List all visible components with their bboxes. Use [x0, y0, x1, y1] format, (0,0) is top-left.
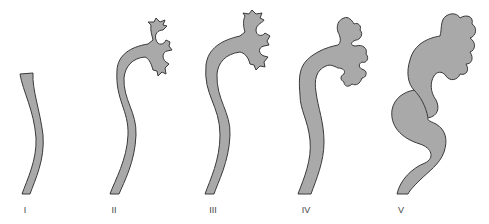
- grade-label-5: V: [398, 205, 404, 215]
- grade-label-1: I: [24, 205, 27, 215]
- grade-1-ureter: [20, 73, 43, 194]
- grade-2-kidney: [110, 18, 172, 194]
- grade-3-kidney: [205, 10, 270, 194]
- grade-label-4: IV: [302, 205, 311, 215]
- grade-5-kidney: [392, 14, 476, 194]
- reflux-grades-diagram: [0, 0, 489, 224]
- grade-label-3: III: [209, 205, 217, 215]
- grade-label-2: II: [111, 205, 116, 215]
- grade-4-kidney: [298, 17, 368, 194]
